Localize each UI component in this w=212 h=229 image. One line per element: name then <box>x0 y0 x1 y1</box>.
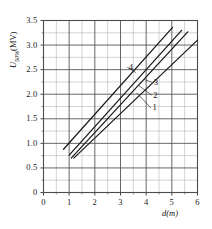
y-axis-tick-label: 2.0 <box>12 89 38 99</box>
x-axis-tick-label: 2 <box>87 197 103 207</box>
x-axis-tick-label: 1 <box>61 197 77 207</box>
data-line-2 <box>69 30 181 155</box>
x-axis-tick-label: 6 <box>190 197 206 207</box>
y-axis-title-subscript: 50% <box>14 51 20 62</box>
x-axis-title: d(m) <box>162 208 178 218</box>
data-line-1 <box>71 32 188 158</box>
curve-label-4: 4 <box>129 62 133 72</box>
x-axis-tick-label: 3 <box>113 197 129 207</box>
y-axis-tick-label: 1.5 <box>12 113 38 123</box>
y-axis-tick-label: 3.5 <box>12 15 38 25</box>
y-axis-tick-label: 0 <box>12 187 38 197</box>
data-curves <box>64 27 198 158</box>
data-line-3 <box>74 40 198 158</box>
y-axis-tick-label: 3.0 <box>12 40 38 50</box>
x-axis-tick-label: 5 <box>164 197 180 207</box>
curve-label-1: 1 <box>153 102 157 112</box>
y-axis-tick-label: 2.5 <box>12 64 38 74</box>
leader-line-1 <box>136 93 151 108</box>
y-axis-tick-label: 0.5 <box>12 162 38 172</box>
y-axis-tick-label: 1.0 <box>12 138 38 148</box>
x-axis-tick-label: 4 <box>138 197 154 207</box>
x-axis-tick-label: 0 <box>36 197 52 207</box>
curve-label-3: 3 <box>154 77 158 87</box>
chart-screenshot: U50%(MV) d(m) 00.51.01.52.02.53.03.50123… <box>0 0 212 229</box>
curve-label-2: 2 <box>153 90 157 100</box>
